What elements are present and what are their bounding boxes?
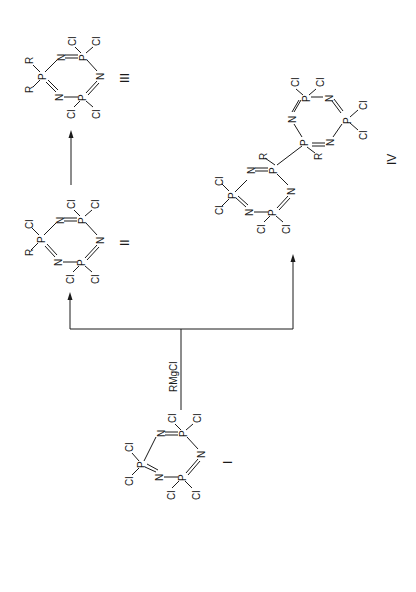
atom-Cl: Cl <box>65 275 76 284</box>
atom-Cl: Cl <box>358 131 369 140</box>
atom-Cl: Cl <box>124 443 135 452</box>
reagent-label: RMgCl <box>168 361 179 392</box>
atom-Cl: Cl <box>166 491 177 500</box>
atom-Cl: Cl <box>91 110 102 119</box>
atom-P: P <box>77 94 88 101</box>
atom-Cl: Cl <box>214 206 225 215</box>
atom-N: N <box>325 139 336 146</box>
atom-Cl: Cl <box>90 200 101 209</box>
atom-P: P <box>342 117 353 124</box>
atom-N: N <box>156 430 167 437</box>
atom-R: R <box>313 153 324 160</box>
atom-P: P <box>37 73 48 80</box>
compound-II: P N P N P N Cl R Cl Cl Cl Cl II <box>24 200 132 284</box>
atom-P: P <box>78 54 89 61</box>
atom-N: N <box>196 451 207 458</box>
compound-I: P N P N P N Cl Cl Cl Cl Cl Cl I <box>124 414 235 500</box>
atom-N: N <box>324 95 335 102</box>
atom-R: R <box>24 86 35 93</box>
atom-P: P <box>301 95 312 102</box>
atom-P: P <box>267 209 278 216</box>
atom-Cl: Cl <box>67 37 78 46</box>
atom-P: P <box>268 167 279 174</box>
atom-N: N <box>286 188 297 195</box>
arrowhead-to-II <box>68 292 73 300</box>
compound-III: P N P N P N R R Cl Cl Cl Cl III <box>24 37 132 119</box>
atom-R: R <box>24 57 35 64</box>
atom-N: N <box>56 54 67 61</box>
atom-P: P <box>227 192 238 199</box>
atom-Cl: Cl <box>66 110 77 119</box>
arrowhead-to-IV <box>291 254 296 262</box>
atom-Cl: Cl <box>124 477 135 486</box>
atom-Cl: Cl <box>256 225 267 234</box>
atom-Cl: Cl <box>191 491 202 500</box>
reaction-arrows: RMgCl <box>68 130 296 410</box>
compound-label-I: I <box>221 461 235 464</box>
atom-N: N <box>95 237 106 244</box>
atom-Cl: Cl <box>290 78 301 87</box>
atom-N: N <box>95 73 106 80</box>
atom-N: N <box>54 94 65 101</box>
atom-Cl: Cl <box>24 220 35 229</box>
atom-Cl: Cl <box>214 177 225 186</box>
atom-N: N <box>154 474 165 481</box>
compound-IV: P N P N P N Cl Cl R Cl Cl P N P N P N R … <box>214 78 399 234</box>
atom-P: P <box>36 236 47 243</box>
atom-Cl: Cl <box>90 275 101 284</box>
atom-N: N <box>53 259 64 266</box>
atom-Cl: Cl <box>66 200 77 209</box>
atom-Cl: Cl <box>192 414 203 423</box>
atom-Cl: Cl <box>315 78 326 87</box>
atom-N: N <box>244 209 255 216</box>
compound-label-II: II <box>118 239 132 246</box>
atom-R: R <box>24 249 35 256</box>
atom-Cl: Cl <box>91 37 102 46</box>
arrowhead-to-III <box>69 130 74 138</box>
atom-P: P <box>136 461 147 468</box>
atom-P: P <box>299 139 310 146</box>
compound-label-IV: IV <box>385 154 399 165</box>
atom-Cl: Cl <box>167 414 178 423</box>
reaction-scheme: P N P N P N Cl Cl Cl Cl Cl Cl I RMgCl <box>0 0 416 592</box>
atom-N: N <box>246 167 257 174</box>
compound-label-III: III <box>118 73 132 83</box>
atom-P: P <box>76 259 87 266</box>
atom-Cl: Cl <box>358 101 369 110</box>
atom-P: P <box>178 430 189 437</box>
atom-R: R <box>258 153 269 160</box>
atom-Cl: Cl <box>281 225 292 234</box>
atom-N: N <box>55 217 66 224</box>
atom-N: N <box>287 116 298 123</box>
atom-P: P <box>177 474 188 481</box>
atom-P: P <box>77 217 88 224</box>
